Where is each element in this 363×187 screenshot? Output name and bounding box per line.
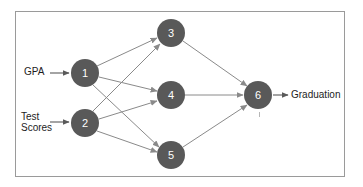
edge-5-6 (183, 105, 247, 147)
node-3[interactable]: 3 (157, 19, 185, 47)
input-label-test-scores: Test Scores (21, 111, 52, 133)
edge-1-3 (97, 38, 157, 66)
output-label-graduation: Graduation (291, 89, 340, 100)
node-3-label: 3 (168, 27, 174, 39)
diagram-canvas: 1 2 3 4 5 6 GPA Test Scores Graduation (0, 0, 363, 187)
input-label-gpa: GPA (24, 66, 44, 77)
edges-input-hidden (93, 38, 160, 152)
node-1[interactable]: 1 (71, 59, 99, 87)
input-arrows (50, 73, 69, 122)
artifact-speck (259, 112, 260, 117)
node-5[interactable]: 5 (157, 141, 185, 169)
node-2-label: 2 (82, 117, 88, 129)
edge-1-5 (93, 85, 159, 147)
node-2[interactable]: 2 (71, 109, 99, 137)
node-1-label: 1 (82, 67, 88, 79)
node-6-label: 6 (255, 89, 261, 101)
node-5-label: 5 (168, 149, 174, 161)
edge-2-4 (99, 101, 157, 119)
edge-2-5 (97, 131, 157, 152)
node-6[interactable]: 6 (244, 81, 272, 109)
edge-3-6 (183, 41, 247, 86)
edges-hidden-output (183, 41, 247, 147)
node-4-label: 4 (168, 89, 174, 101)
node-4[interactable]: 4 (157, 81, 185, 109)
edge-1-4 (99, 77, 157, 91)
